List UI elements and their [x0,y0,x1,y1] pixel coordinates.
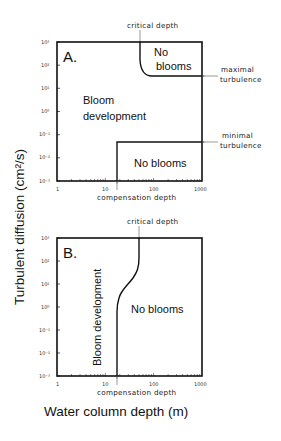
svg-text:10⁻²: 10⁻² [39,154,50,160]
y-tick-labels-b: 10³ 10² 10¹ 10⁰ 10⁻¹ 10⁻² 10⁻³ [39,235,50,379]
svg-text:1000: 1000 [194,186,207,192]
region-no-blooms-top-line2: blooms [156,60,192,72]
minimal-turbulence-label-line2: turbulence [220,141,262,150]
panel-b: critical depth 10³ 10² 10¹ 10⁰ 10⁻¹ 10⁻²… [39,217,207,397]
svg-text:10⁻¹: 10⁻¹ [39,327,50,333]
svg-text:10: 10 [102,186,108,192]
svg-text:10⁰: 10⁰ [41,108,49,114]
svg-text:1000: 1000 [194,381,207,387]
critical-depth-label-a: critical depth [127,21,178,30]
panel-label-a: A. [63,48,77,65]
region-bloom-line1: Bloom [83,94,114,106]
y-tick-labels-a: 10³ 10² 10¹ 10⁰ 10⁻¹ 10⁻² 10⁻³ [39,39,50,184]
svg-text:10²: 10² [41,62,49,68]
figure: critical depth 10³ 10² 10¹ 10⁰ 10⁻¹ 10⁻²… [0,0,281,441]
svg-text:100: 100 [149,381,159,387]
svg-text:100: 100 [149,186,159,192]
minimal-turbulence-label-line1: minimal [222,131,253,140]
svg-text:10⁻³: 10⁻³ [39,178,50,184]
compensation-depth-label-a: compensation depth [97,193,176,202]
svg-text:10¹: 10¹ [41,85,49,91]
maximal-turbulence-label-line1: maximal [221,65,254,74]
region-bloom-development-b: Bloom development [91,269,103,366]
panel-label-b: B. [63,244,77,261]
critical-depth-label-b: critical depth [127,217,178,226]
svg-text:10⁻¹: 10⁻¹ [39,131,50,137]
svg-text:10⁻³: 10⁻³ [39,373,50,379]
svg-text:10: 10 [102,381,108,387]
compensation-depth-label-b: compensation depth [97,388,176,397]
svg-text:10⁻²: 10⁻² [39,350,50,356]
region-no-blooms-top-line1: No [154,46,168,58]
maximal-turbulence-label-line2: turbulence [220,75,262,84]
svg-text:10³: 10³ [41,39,49,45]
region-no-blooms-bottom: No blooms [134,157,187,169]
svg-text:10³: 10³ [41,235,49,241]
y-axis-title: Turbulent diffusion (cm²/s) [12,149,27,305]
x-tick-labels-b: 1 10 100 1000 [56,381,207,387]
region-no-blooms-b: No blooms [131,303,184,315]
panel-a: critical depth 10³ 10² 10¹ 10⁰ 10⁻¹ 10⁻²… [39,21,262,202]
svg-text:1: 1 [56,186,59,192]
svg-text:10²: 10² [41,258,49,264]
svg-text:10⁰: 10⁰ [41,304,49,310]
x-axis-title: Water column depth (m) [44,404,188,419]
svg-text:10¹: 10¹ [41,281,49,287]
svg-text:1: 1 [56,381,59,387]
x-tick-labels-a: 1 10 100 1000 [56,186,207,192]
region-bloom-line2: development [83,110,146,122]
